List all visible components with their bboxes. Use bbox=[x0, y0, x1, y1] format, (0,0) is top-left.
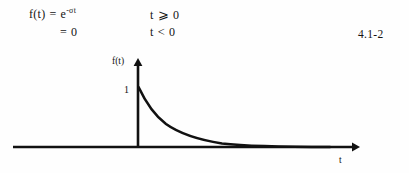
decay-curve bbox=[139, 87, 331, 147]
x-axis-label: t bbox=[339, 155, 342, 165]
y-tick-label-one: 1 bbox=[124, 84, 129, 95]
y-axis-arrow-icon bbox=[134, 58, 143, 66]
figure-page: f(t)=e-σt =0 t⩾0 t<0 4.1-2 f(t) 1 t bbox=[0, 0, 409, 173]
x-axis-arrow-icon bbox=[352, 143, 360, 152]
exponential-decay-plot bbox=[0, 0, 409, 173]
y-axis-label: f(t) bbox=[112, 56, 124, 66]
